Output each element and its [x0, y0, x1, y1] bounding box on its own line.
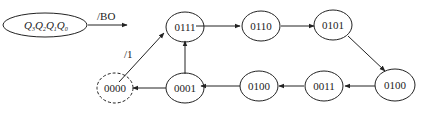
- svg-text:0000: 0000: [104, 82, 127, 94]
- legend-output-label: /BO: [97, 10, 115, 22]
- state-0011: 0011: [305, 71, 343, 101]
- state-diagram: Q3Q2Q1Q0 /BO /1 0000 0111 0110 0101 0100: [0, 0, 428, 114]
- state-0101: 0101: [314, 10, 352, 40]
- svg-text:0101: 0101: [322, 19, 344, 31]
- edge-0101-0100: [348, 36, 385, 71]
- svg-text:0011: 0011: [313, 80, 335, 92]
- svg-text:0111: 0111: [174, 21, 195, 33]
- start-edge-label: /1: [124, 48, 133, 60]
- svg-text:0100: 0100: [248, 80, 271, 92]
- state-0111: 0111: [166, 12, 204, 42]
- svg-text:0001: 0001: [174, 82, 196, 94]
- state-0100-right: 0100: [375, 69, 415, 101]
- transitions: [119, 26, 385, 88]
- state-0000: 0000: [97, 73, 133, 103]
- svg-text:0100: 0100: [384, 79, 407, 91]
- state-0110: 0110: [242, 11, 280, 41]
- svg-text:0110: 0110: [250, 20, 272, 32]
- legend-state-bits: Q3Q2Q1Q0: [24, 19, 68, 32]
- state-0001: 0001: [166, 73, 204, 103]
- state-0100-left: 0100: [240, 71, 278, 101]
